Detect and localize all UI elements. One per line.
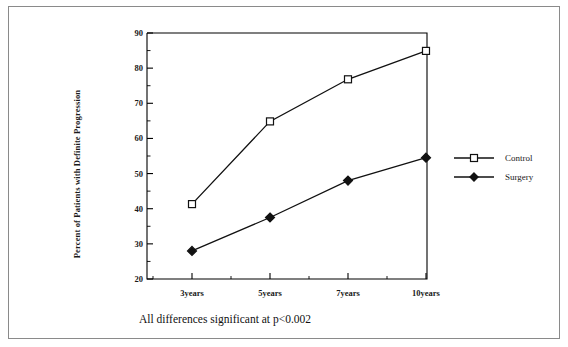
chart-legend: Control Surgery <box>452 148 557 186</box>
x-tick-label-10years: 10years <box>412 288 440 298</box>
series-markers-surgery <box>188 153 431 255</box>
chart-area: 20 30 40 50 60 70 80 90 3years 5years 7y… <box>9 7 561 340</box>
x-tick-label-3years: 3years <box>180 288 204 298</box>
top-text-remnant <box>0 0 568 5</box>
legend-label-control: Control <box>496 153 533 163</box>
filled-diamond-marker <box>344 176 353 185</box>
legend-item-control: Control <box>452 148 557 167</box>
x-tick-label-7years: 7years <box>336 288 360 298</box>
x-tick-label-5years: 5years <box>258 288 282 298</box>
legend-label-surgery: Surgery <box>496 172 533 182</box>
legend-item-surgery: Surgery <box>452 167 557 186</box>
filled-diamond-marker <box>422 153 431 162</box>
y-tick-label: 40 <box>127 204 143 214</box>
y-tick-label: 70 <box>127 98 143 108</box>
open-square-marker <box>471 154 478 161</box>
axis-frame <box>147 33 427 279</box>
y-axis-title: Percent of Patients with Definite Progre… <box>72 90 82 258</box>
y-tick-label: 60 <box>127 133 143 143</box>
figure-panel: 20 30 40 50 60 70 80 90 3years 5years 7y… <box>8 6 560 339</box>
open-square-marker <box>267 118 274 125</box>
filled-diamond-marker <box>470 172 478 180</box>
legend-swatch-control <box>452 151 496 165</box>
y-tick-label: 30 <box>127 239 143 249</box>
open-square-marker <box>189 201 196 208</box>
y-tick-label: 80 <box>127 63 143 73</box>
open-square-marker <box>423 47 430 54</box>
chart-caption: All differences significant at p<0.002 <box>9 313 441 325</box>
filled-diamond-marker <box>188 246 197 255</box>
y-tick-label: 20 <box>127 274 143 284</box>
series-markers-control <box>189 47 430 207</box>
y-tick-label: 90 <box>127 28 143 38</box>
open-square-marker <box>345 76 352 83</box>
series-line-control <box>192 51 426 204</box>
legend-swatch-surgery <box>452 170 496 184</box>
y-tick-label: 50 <box>127 169 143 179</box>
filled-diamond-marker <box>266 213 275 222</box>
series-line-surgery <box>192 158 426 251</box>
